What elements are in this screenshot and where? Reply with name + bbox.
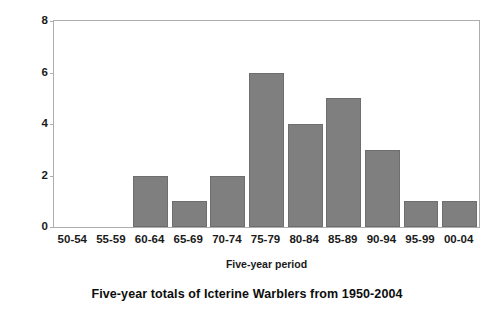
bar <box>210 176 245 228</box>
chart-figure: Number of individuals 02468 50-5455-5960… <box>0 0 494 312</box>
plot-area <box>53 20 480 228</box>
x-axis-tick-label: 65-69 <box>169 231 208 247</box>
x-axis-tick-label: 50-54 <box>53 231 92 247</box>
y-axis-tick-label: 6 <box>28 67 48 79</box>
y-axis-tick-mark <box>50 176 54 177</box>
bar <box>172 201 207 227</box>
x-axis-tick-label: 75-79 <box>246 231 285 247</box>
x-axis-tick-label: 95-99 <box>401 231 440 247</box>
bar <box>365 150 400 227</box>
x-axis-tick-label: 85-89 <box>323 231 362 247</box>
y-axis-tick-mark <box>50 21 54 22</box>
x-axis-tick-label: 55-59 <box>92 231 131 247</box>
x-axis-tick-label: 70-74 <box>208 231 247 247</box>
bar <box>326 98 361 227</box>
y-axis-tick-labels: 02468 <box>28 0 48 312</box>
x-axis-tick-label: 80-84 <box>285 231 324 247</box>
x-axis-tick-label: 60-64 <box>130 231 169 247</box>
x-axis-title: Five-year period <box>53 258 480 270</box>
y-axis-tick-label: 8 <box>28 15 48 27</box>
y-axis-tick-label: 2 <box>28 170 48 182</box>
y-axis-tick-mark <box>50 227 54 228</box>
x-axis-tick-label: 90-94 <box>362 231 401 247</box>
plot-inner <box>54 21 479 227</box>
bar <box>288 124 323 227</box>
bar <box>404 201 439 227</box>
y-axis-tick-label: 4 <box>28 118 48 130</box>
y-axis-tick-mark <box>50 124 54 125</box>
bar <box>133 176 168 228</box>
chart-caption: Five-year totals of Icterine Warblers fr… <box>0 287 494 301</box>
y-axis-tick-mark <box>50 73 54 74</box>
bar <box>442 201 477 227</box>
y-axis-tick-label: 0 <box>28 221 48 233</box>
bar <box>249 73 284 228</box>
x-axis-tick-label: 00-04 <box>439 231 478 247</box>
x-axis-tick-labels: 50-5455-5960-6465-6970-7475-7980-8485-89… <box>53 231 480 249</box>
y-axis-title: Number of individuals <box>2 0 24 42</box>
